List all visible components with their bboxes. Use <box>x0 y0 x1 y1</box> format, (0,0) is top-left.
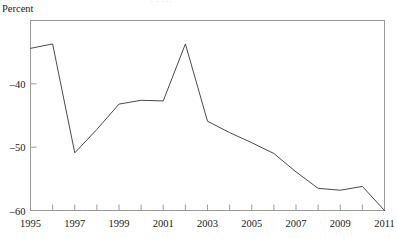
x-axis-tick-label: 1997 <box>64 218 85 229</box>
x-axis-tick-label: 1999 <box>109 218 130 229</box>
x-axis-tick-label: 2009 <box>330 218 351 229</box>
x-axis-ticks <box>31 205 385 211</box>
x-axis-tick-label: 2007 <box>286 218 307 229</box>
line-chart-plot: –40–50–60 199519971999200120032005200720… <box>0 0 397 238</box>
x-axis-tick-label: 2003 <box>197 218 218 229</box>
x-axis-tick-labels: 199519971999200120032005200720092011 <box>20 218 395 229</box>
x-axis-tick-label: 2011 <box>374 218 395 229</box>
y-axis-ticks <box>31 84 37 211</box>
y-axis-tick-label: –60 <box>9 206 26 217</box>
plot-frame <box>31 21 385 211</box>
x-axis-tick-label: 2005 <box>241 218 262 229</box>
data-series-group <box>31 44 385 211</box>
x-axis-tick-label: 1995 <box>20 218 41 229</box>
x-axis-tick-label: 2001 <box>153 218 174 229</box>
chart-container: · · ··· Percent –40–50–60 19951997199920… <box>0 0 397 238</box>
series-line-percent <box>31 44 385 211</box>
plot-frame-rect <box>31 21 385 211</box>
y-axis-tick-label: –50 <box>9 142 26 153</box>
y-axis-tick-label: –40 <box>9 79 26 90</box>
y-axis-tick-labels: –40–50–60 <box>9 79 26 217</box>
